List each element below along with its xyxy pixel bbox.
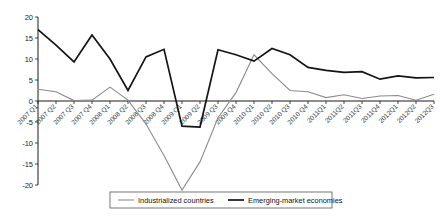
- y-tick-label: 15: [25, 34, 33, 43]
- legend-label-industrialized-countries: Industrialized countries: [138, 196, 214, 205]
- y-tick-label: -20: [22, 181, 33, 190]
- x-tick-label: 2010 Q4: [286, 103, 310, 127]
- y-tick-label: -15: [22, 160, 33, 169]
- y-tick-label: 20: [25, 13, 33, 22]
- line-chart: 20151050-5-10-15-202007 Q12007 Q22007 Q3…: [0, 0, 440, 218]
- x-tick-label: 2011Q1: [306, 103, 328, 125]
- x-tick-label: 2011Q2: [324, 103, 346, 125]
- x-tick-label: 2011Q3: [342, 103, 364, 125]
- y-tick-label: 5: [29, 76, 33, 85]
- y-tick-label: -10: [22, 139, 33, 148]
- y-tick-label: 10: [25, 55, 33, 64]
- chart-container: 20151050-5-10-15-202007 Q12007 Q22007 Q3…: [0, 0, 440, 218]
- x-tick-label: 2012Q3: [413, 103, 435, 125]
- legend-label-emerging-market-economies: Emerging-market economies: [248, 196, 343, 205]
